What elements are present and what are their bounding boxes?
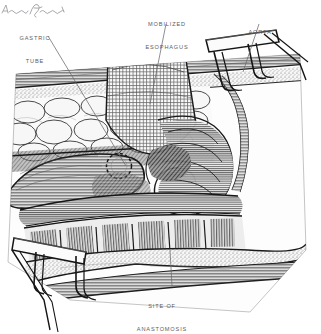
label-mobilized-esophagus-line1: MOBILIZED — [132, 21, 202, 29]
label-aorta: AORTA — [234, 14, 286, 44]
label-gastric-tube-line1: GASTRIC — [6, 35, 64, 43]
label-gastric-tube: GASTRIC TUBE — [6, 20, 64, 73]
surgical-illustration: GASTRIC TUBE MOBILIZED ESOPHAGUS AORTA S… — [0, 0, 321, 334]
label-gastric-tube-line2: TUBE — [6, 58, 64, 66]
label-site-of-anastomosis-line1: SITE OF — [116, 303, 208, 311]
label-site-of-anastomosis: SITE OF ANASTOMOSIS — [116, 288, 208, 334]
artist-signature — [0, 0, 72, 20]
label-mobilized-esophagus: MOBILIZED ESOPHAGUS — [132, 6, 202, 59]
label-aorta-line1: AORTA — [234, 29, 286, 37]
label-mobilized-esophagus-line2: ESOPHAGUS — [132, 44, 202, 52]
label-site-of-anastomosis-line2: ANASTOMOSIS — [116, 326, 208, 334]
